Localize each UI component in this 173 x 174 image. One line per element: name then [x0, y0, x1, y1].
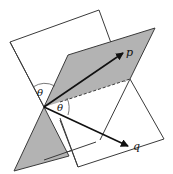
label-theta-upper: θ: [37, 87, 43, 98]
label-q: q: [133, 140, 140, 153]
label-theta-lower: θ: [57, 102, 63, 113]
label-p: p: [126, 46, 133, 59]
two-planes-diagram: p q θ θ: [0, 0, 173, 174]
